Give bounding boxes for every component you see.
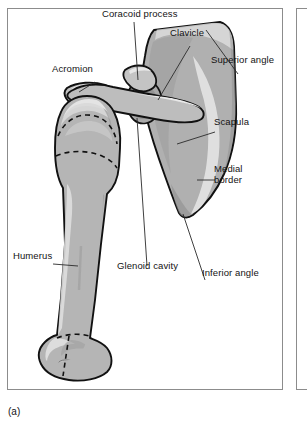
label-inferior-angle: Inferior angle [202, 267, 259, 278]
label-coracoid-process: Coracoid process [102, 8, 178, 19]
humerus-bone [39, 96, 120, 381]
label-clavicle: Clavicle [170, 27, 204, 38]
label-acromion: Acromion [52, 63, 93, 74]
figure-caption: (a) [8, 406, 20, 417]
label-scapula: Scapula [214, 116, 249, 127]
shoulder-girdle-diagram [7, 8, 283, 390]
label-glenoid-cavity: Glenoid cavity [117, 260, 178, 271]
figure-root: Coracoid process Clavicle Superior angle… [0, 0, 307, 426]
label-superior-angle: Superior angle [211, 54, 274, 65]
bone-group [39, 22, 238, 381]
humerus-outline [39, 96, 120, 381]
leader-glenoid-cavity [137, 118, 147, 266]
label-humerus: Humerus [13, 250, 52, 261]
label-medial-border: Medial border [214, 163, 243, 185]
adjacent-figure-panel [296, 8, 307, 390]
